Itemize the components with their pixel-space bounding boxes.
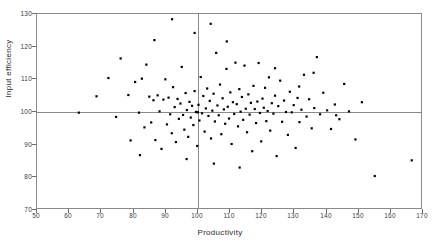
data-point: [259, 112, 261, 114]
data-point: [343, 83, 345, 85]
data-point: [166, 123, 168, 125]
data-point: [209, 100, 211, 102]
data-point: [167, 97, 169, 99]
data-point: [141, 78, 143, 80]
data-point: [334, 103, 336, 105]
data-point: [239, 166, 241, 168]
y-tick-mark: [32, 46, 36, 47]
data-point: [186, 109, 188, 111]
y-tick-mark: [32, 111, 36, 112]
data-point: [201, 112, 203, 114]
data-point: [264, 87, 266, 89]
data-point: [300, 109, 302, 111]
data-point: [296, 97, 298, 99]
data-point: [148, 96, 150, 98]
data-point: [175, 141, 177, 143]
data-point: [263, 107, 265, 109]
data-point: [107, 77, 109, 79]
x-tick-label: 60: [64, 212, 72, 219]
data-point: [218, 114, 220, 116]
data-point: [225, 68, 227, 70]
data-point: [197, 111, 199, 113]
data-point: [210, 137, 212, 139]
data-point: [268, 76, 270, 78]
x-axis-title: Productivity: [0, 228, 440, 237]
data-point: [219, 83, 221, 85]
data-point: [191, 105, 193, 107]
data-point: [308, 98, 310, 100]
data-point: [265, 120, 267, 122]
y-tick-label: 100: [12, 108, 32, 115]
data-point: [185, 92, 187, 94]
data-point: [158, 110, 160, 112]
y-tick-mark: [32, 78, 36, 79]
data-point: [231, 143, 233, 145]
data-point: [287, 134, 289, 136]
data-point: [316, 56, 318, 58]
data-point: [291, 111, 293, 113]
data-point: [251, 150, 253, 152]
data-point: [194, 90, 196, 92]
data-point: [190, 116, 192, 118]
data-point: [281, 121, 283, 123]
data-point: [242, 119, 244, 121]
data-point: [164, 78, 166, 80]
data-point: [238, 88, 240, 90]
data-point: [162, 98, 164, 100]
x-tick-label: 50: [32, 212, 40, 219]
data-point: [120, 57, 122, 59]
data-point: [258, 62, 260, 64]
data-point: [326, 109, 328, 111]
data-point: [254, 108, 256, 110]
data-point: [267, 110, 269, 112]
data-point: [213, 93, 215, 95]
data-point: [241, 96, 243, 98]
data-point: [305, 115, 307, 117]
x-tick-label: 160: [384, 212, 395, 219]
data-point: [185, 158, 187, 160]
data-point: [298, 85, 300, 87]
data-point: [243, 65, 245, 67]
y-tick-label: 80: [12, 173, 32, 180]
data-point: [192, 124, 194, 126]
data-point: [171, 18, 173, 20]
data-point: [226, 40, 228, 42]
x-tick-label: 130: [287, 212, 298, 219]
plot-frame: [36, 13, 422, 209]
data-point: [187, 136, 189, 138]
data-point: [295, 147, 297, 149]
data-point: [319, 113, 321, 115]
data-point: [197, 104, 199, 106]
data-point: [293, 104, 295, 106]
data-point: [289, 91, 291, 93]
data-point: [283, 99, 285, 101]
data-point: [232, 101, 234, 103]
data-point: [172, 86, 174, 88]
data-point: [276, 155, 278, 157]
data-point: [237, 125, 239, 127]
data-point: [182, 114, 184, 116]
data-point: [279, 80, 281, 82]
y-tick-mark: [32, 13, 36, 14]
data-point: [271, 102, 273, 104]
data-point: [160, 148, 162, 150]
y-tick-label: 110: [12, 75, 32, 82]
data-point: [285, 111, 287, 113]
data-point: [227, 106, 229, 108]
x-tick-label: 100: [191, 212, 202, 219]
data-point: [274, 67, 276, 69]
data-point: [200, 76, 202, 78]
data-point: [354, 138, 356, 140]
data-point: [260, 140, 262, 142]
data-point: [127, 94, 129, 96]
data-point: [274, 95, 276, 97]
data-point: [338, 118, 340, 120]
data-point: [178, 118, 180, 120]
data-point: [303, 74, 305, 76]
data-point: [255, 122, 257, 124]
data-point: [169, 113, 171, 115]
data-point: [240, 111, 242, 113]
data-point: [256, 100, 258, 102]
data-point: [222, 97, 224, 99]
x-tick-label: 80: [129, 212, 137, 219]
